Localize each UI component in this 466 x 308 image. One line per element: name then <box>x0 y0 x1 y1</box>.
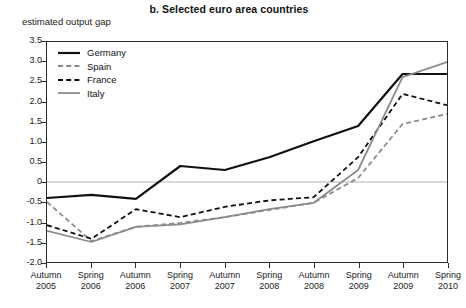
legend-swatch-france-icon <box>58 75 80 85</box>
x-axis-tick-year: 2010 <box>420 281 466 292</box>
legend-swatch-spain-icon <box>58 61 80 71</box>
x-axis-tick <box>403 263 404 268</box>
x-axis-tick-label: Spring2010 <box>420 270 466 292</box>
y-axis-tick-label: 2.5 <box>2 75 42 85</box>
y-axis-tick-label: -1.0 <box>2 217 42 227</box>
x-axis-tick <box>46 263 47 268</box>
y-axis-tick-label: -2.0 <box>2 257 42 267</box>
x-axis-tick <box>269 263 270 268</box>
x-axis-tick-season: Spring <box>420 270 466 281</box>
legend-swatch-italy-icon <box>58 88 80 98</box>
y-axis-tick-label: -0.5 <box>2 196 42 206</box>
legend-item-germany[interactable]: Germany <box>58 46 126 60</box>
series-line-spain <box>47 114 447 241</box>
x-axis-tick <box>180 263 181 268</box>
chart-title: b. Selected euro area countries <box>0 3 458 15</box>
x-axis-tick <box>91 263 92 268</box>
legend-label: Spain <box>87 61 111 72</box>
y-axis-tick-label: -1.5 <box>2 237 42 247</box>
legend-swatch-germany-icon <box>58 48 80 58</box>
x-axis-tick <box>448 263 449 268</box>
x-axis-tick <box>359 263 360 268</box>
y-axis-tick-label: 1.5 <box>2 116 42 126</box>
legend-label: Germany <box>87 47 126 58</box>
y-axis-tick-label: 3.0 <box>2 55 42 65</box>
legend-item-spain[interactable]: Spain <box>58 60 126 74</box>
y-axis-tick-label: 2.0 <box>2 96 42 106</box>
x-axis-tick <box>225 263 226 268</box>
legend-item-france[interactable]: France <box>58 73 126 87</box>
y-axis-tick-label: 1.0 <box>2 136 42 146</box>
series-line-france <box>47 94 447 239</box>
legend-label: France <box>87 74 117 85</box>
x-axis-tick <box>135 263 136 268</box>
chart-legend: GermanySpainFranceItaly <box>58 46 126 100</box>
legend-label: Italy <box>87 88 104 99</box>
y-axis-tick-label: 3.5 <box>2 35 42 45</box>
x-axis-tick <box>314 263 315 268</box>
y-axis-labels: 3.53.02.52.01.51.00.50-0.5-1.0-1.5-2.0 <box>0 0 42 308</box>
y-axis-tick-label: 0 <box>2 176 42 186</box>
legend-item-italy[interactable]: Italy <box>58 87 126 101</box>
y-axis-tick-label: 0.5 <box>2 156 42 166</box>
